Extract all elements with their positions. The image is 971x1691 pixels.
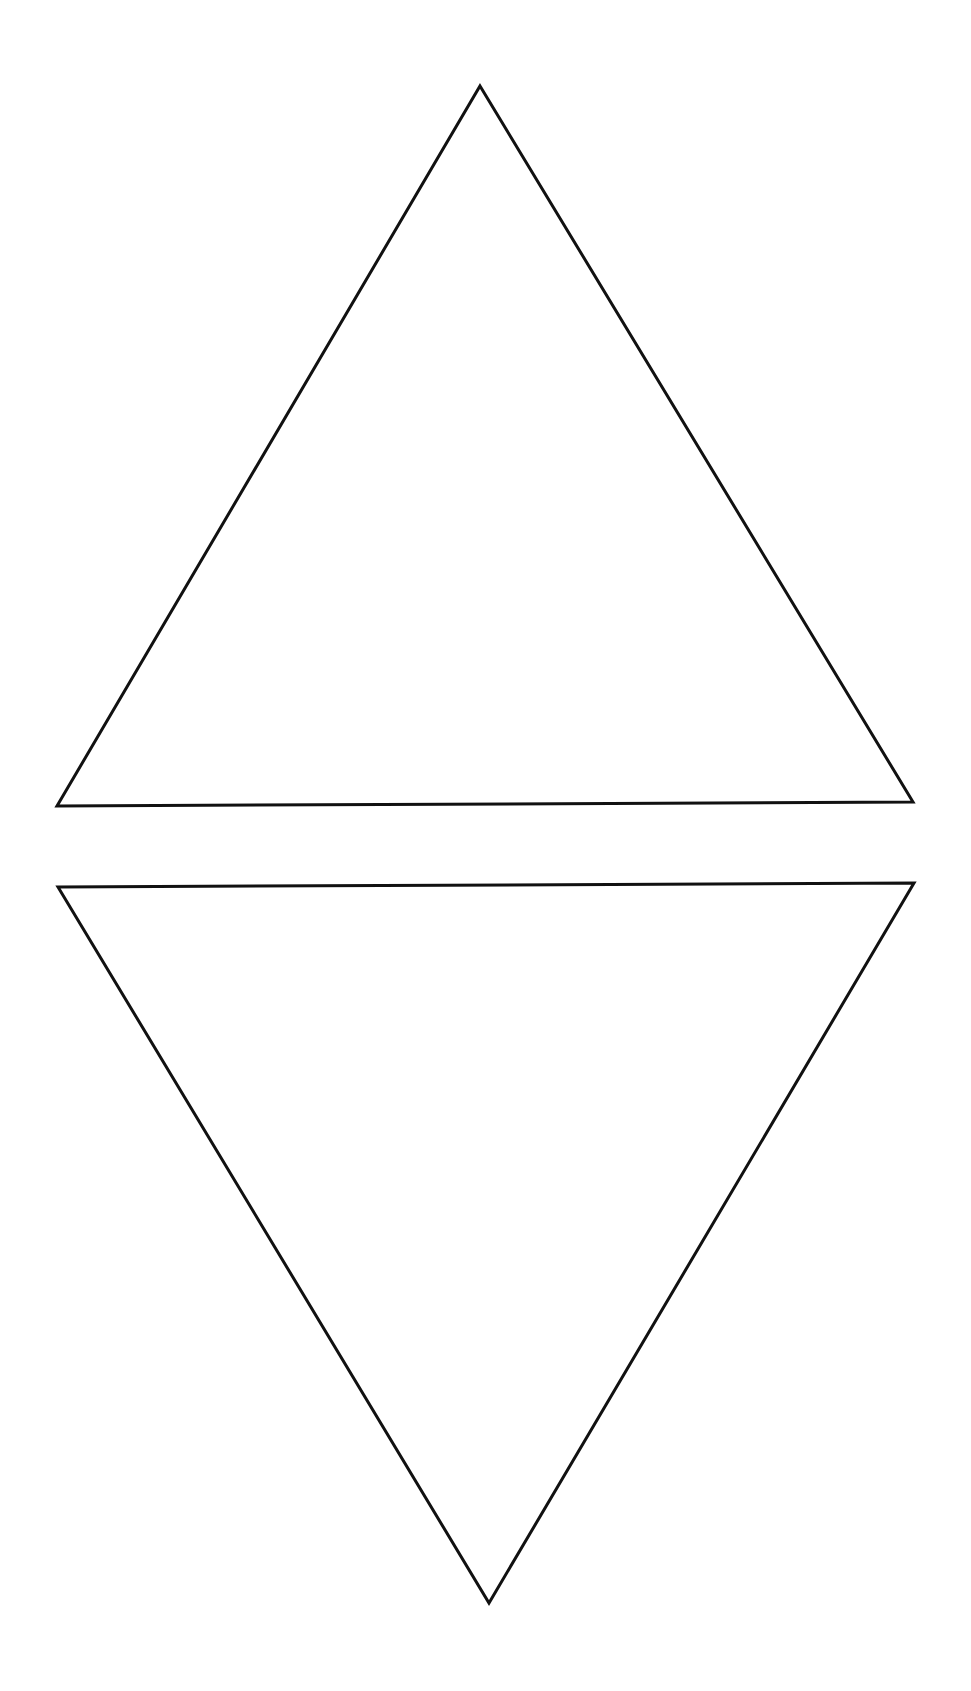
- upward-triangle: [57, 86, 913, 806]
- diagram-canvas: [0, 0, 971, 1691]
- downward-triangle: [58, 883, 914, 1603]
